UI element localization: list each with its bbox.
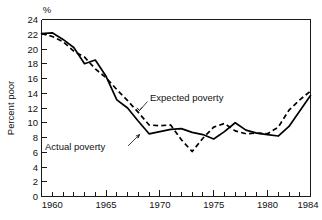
x-tick-label: 1975 <box>203 199 224 210</box>
x-tick-label: 1960 <box>42 199 63 210</box>
plot-frame <box>42 20 311 197</box>
x-tick-label: 1970 <box>149 199 170 210</box>
leader-line-actual <box>128 135 140 147</box>
annotation-label-expected-poverty: Expected poverty <box>150 92 224 103</box>
series-line-actual-poverty <box>42 33 311 139</box>
x-axis-ticks <box>42 190 311 197</box>
y-axis-tick-labels: 24 22 20 18 16 14 12 10 8 6 4 2 0 <box>27 14 38 202</box>
y-tick-label: 0 <box>33 191 38 202</box>
y-axis-unit-label: % <box>43 4 52 15</box>
x-tick-label: 1965 <box>96 199 117 210</box>
annotation-expected-poverty: Expected poverty <box>137 92 224 111</box>
y-axis-title: Percent poor <box>5 81 16 135</box>
annotation-actual-poverty: Actual poverty <box>45 135 140 153</box>
y-tick-label: 16 <box>27 73 38 84</box>
y-tick-label: 20 <box>27 44 38 55</box>
y-tick-label: 2 <box>33 176 38 187</box>
y-tick-label: 10 <box>27 117 38 128</box>
x-tick-label: 1980 <box>257 199 278 210</box>
x-axis-tick-labels: 1960 1965 1970 1975 1980 1984 <box>42 199 319 210</box>
y-tick-label: 18 <box>27 58 38 69</box>
y-tick-label: 8 <box>33 132 38 143</box>
y-tick-label: 4 <box>33 162 38 173</box>
y-tick-label: 22 <box>27 29 38 40</box>
y-tick-label: 6 <box>33 147 38 158</box>
chart-canvas: 24 22 20 18 16 14 12 10 8 6 4 2 0 % Perc… <box>0 0 322 220</box>
annotation-label-actual-poverty: Actual poverty <box>45 141 105 152</box>
poverty-trend-chart-figure: 24 22 20 18 16 14 12 10 8 6 4 2 0 % Perc… <box>0 0 322 220</box>
y-tick-label: 14 <box>27 88 38 99</box>
y-tick-label: 12 <box>27 103 38 114</box>
y-axis-ticks <box>42 20 47 197</box>
x-tick-label: 1984 <box>297 199 318 210</box>
y-tick-label: 24 <box>27 14 38 25</box>
